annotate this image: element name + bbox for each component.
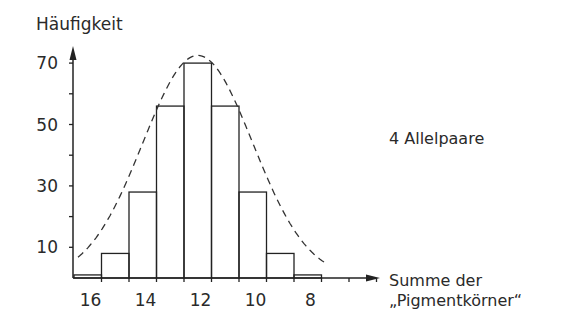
bar-12: [184, 63, 212, 278]
x-tick-label: 16: [80, 290, 102, 310]
y-axis-arrow-icon: [70, 46, 77, 60]
normal-curve: [78, 55, 324, 262]
y-tick-label: 50: [36, 115, 58, 135]
y-tick-label: 70: [36, 53, 58, 73]
x-axis-label-line1: Summe der: [389, 271, 482, 290]
x-tick-label: 12: [190, 290, 212, 310]
histogram-chart: 10305070 161412108 Häufigkeit 4 Allelpaa…: [0, 0, 574, 334]
y-ticks: 10305070: [36, 53, 73, 257]
bar-13: [157, 106, 185, 278]
bar-10: [239, 192, 267, 278]
x-ticks: 161412108: [80, 278, 377, 310]
y-tick-label: 10: [36, 237, 58, 257]
bar-15: [102, 253, 130, 278]
annotation-allele-pairs: 4 Allelpaare: [389, 129, 484, 148]
x-tick-label: 10: [245, 290, 267, 310]
x-axis-arrow-icon: [366, 275, 380, 282]
x-axis-label-line2: „Pigmentkörner“: [389, 291, 522, 310]
bars: [74, 63, 322, 278]
bar-9: [267, 253, 295, 278]
x-tick-label: 14: [135, 290, 157, 310]
y-tick-label: 30: [36, 176, 58, 196]
bar-11: [212, 106, 240, 278]
x-tick-label: 8: [305, 290, 316, 310]
y-axis-label: Häufigkeit: [36, 14, 123, 34]
bar-14: [129, 192, 157, 278]
